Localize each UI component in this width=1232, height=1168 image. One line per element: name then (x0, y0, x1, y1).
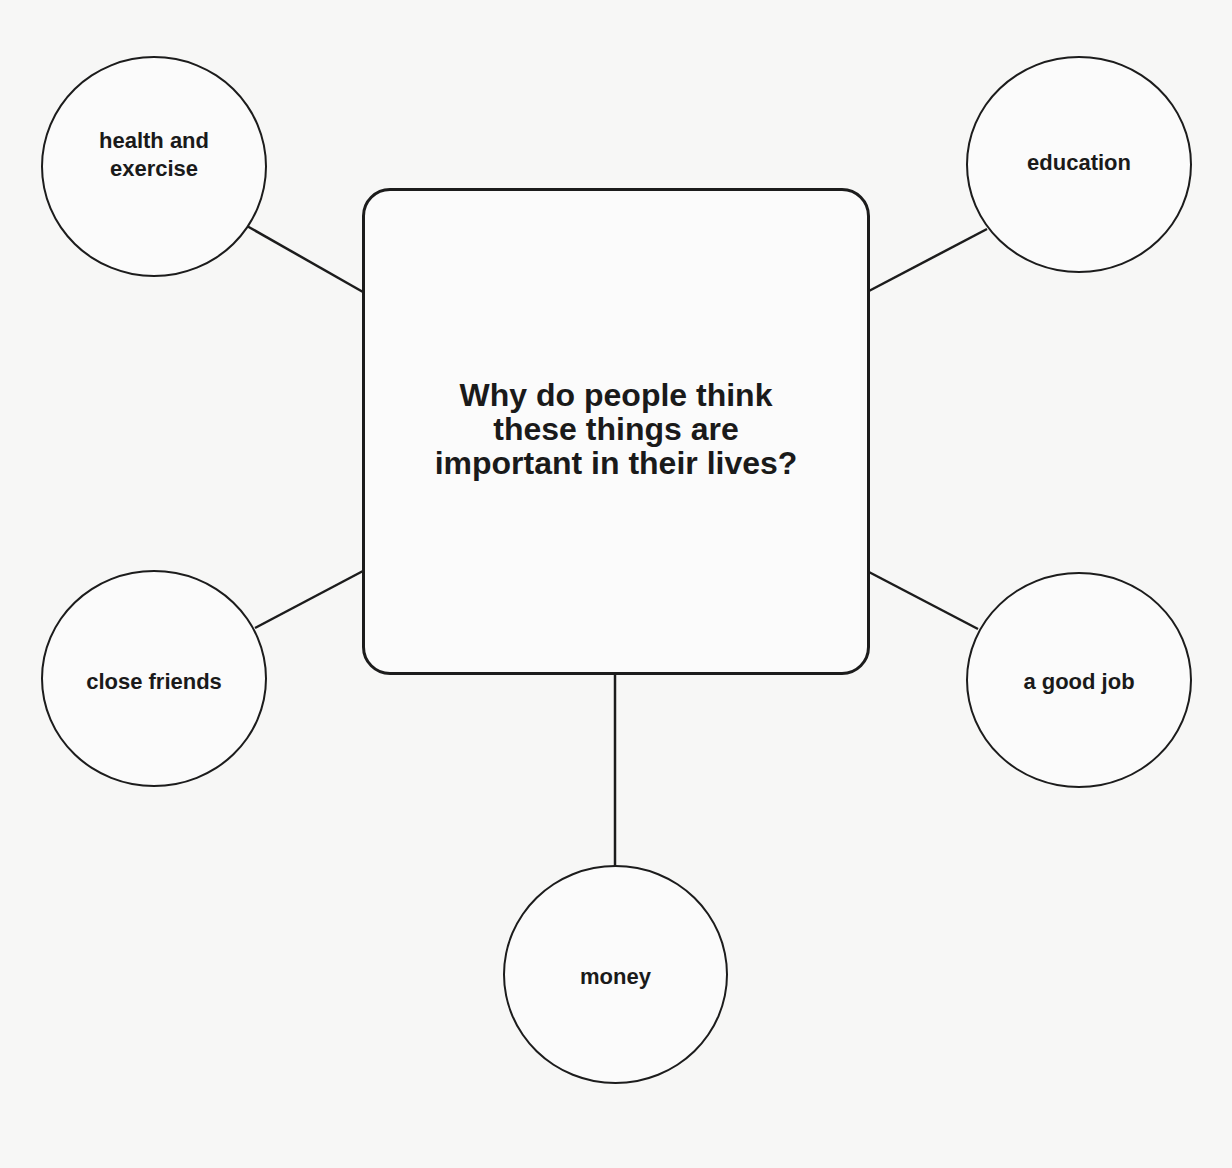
central-question: Why do people think these things are imp… (401, 378, 831, 480)
node-label-line-1: health and (69, 127, 239, 155)
node-a-good-job: a good job (966, 572, 1192, 788)
node-money: money (503, 865, 728, 1084)
connector-friends (255, 571, 363, 628)
node-education: education (966, 56, 1192, 273)
central-question-line-3: important in their lives? (401, 446, 831, 480)
node-label: close friends (69, 668, 239, 696)
central-question-line-1: Why do people think (401, 378, 831, 412)
diagram-page: Why do people think these things are imp… (0, 0, 1232, 1168)
node-close-friends: close friends (41, 570, 267, 787)
central-question-line-2: these things are (401, 412, 831, 446)
node-label: a good job (994, 668, 1164, 696)
node-label: money (531, 963, 701, 991)
node-label: health and exercise (69, 127, 239, 183)
node-label-line-2: exercise (69, 155, 239, 183)
connector-health (247, 226, 363, 292)
node-label: education (994, 149, 1164, 177)
connector-education (867, 229, 987, 292)
central-question-box: Why do people think these things are imp… (362, 188, 870, 675)
node-health-and-exercise: health and exercise (41, 56, 267, 277)
connector-job (867, 571, 978, 629)
